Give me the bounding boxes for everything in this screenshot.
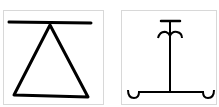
triangle-bar-glyph-icon (4, 11, 105, 106)
left-symbol-panel (3, 10, 104, 105)
right-symbol-panel (121, 10, 217, 105)
stand-hooks-glyph-icon (122, 11, 218, 106)
